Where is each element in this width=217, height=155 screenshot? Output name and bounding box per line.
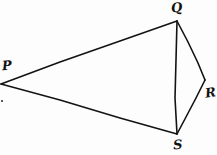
- vertex-label-q: Q: [170, 0, 183, 14]
- edge-R-S: [177, 80, 205, 134]
- vertex-label-p: P: [2, 59, 13, 73]
- geometry-figure: [0, 0, 217, 155]
- edge-P-S: [1, 84, 177, 134]
- ink-speck: [1, 100, 3, 102]
- edge-Q-R: [177, 21, 205, 80]
- edge-Q-S: [175, 21, 177, 134]
- vertex-label-s: S: [172, 138, 182, 152]
- figure-canvas: P Q R S: [0, 0, 217, 155]
- vertex-label-r: R: [204, 85, 217, 99]
- edge-P-Q: [1, 21, 177, 84]
